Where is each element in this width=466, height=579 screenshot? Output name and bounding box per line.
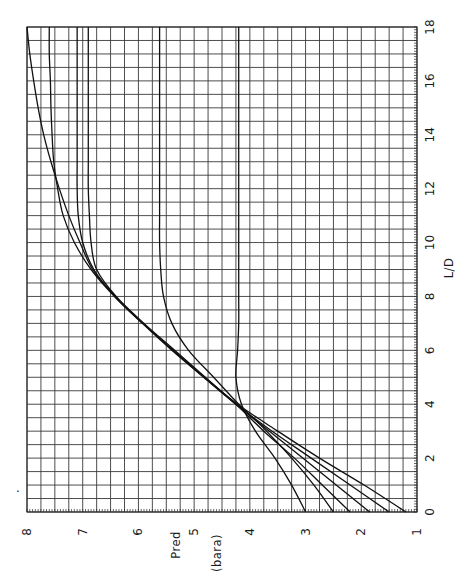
pred-tick-label: 1 [410, 528, 424, 536]
ld-tick-label: 16 [423, 73, 437, 88]
pred-tick-label: 5 [187, 528, 201, 536]
ld-tick-label: 10 [423, 235, 437, 250]
ld-tick-label: 8 [423, 293, 437, 301]
pred-tick-label: 8 [20, 528, 34, 536]
pred-tick-label: 4 [243, 528, 257, 536]
ld-tick-label: 14 [423, 127, 437, 142]
ld-tick-label: 4 [423, 400, 437, 408]
stray-dot: . [16, 481, 20, 495]
pred-tick-label: 3 [299, 528, 313, 536]
ld-axis-tick-labels: 024681012141618 [423, 19, 437, 515]
ld-tick-label: 12 [423, 181, 437, 196]
ld-tick-label: 6 [423, 347, 437, 355]
ld-tick-label: 0 [423, 508, 437, 516]
ld-tick-label: 2 [423, 454, 437, 462]
grid [27, 27, 417, 512]
pred-tick-label: 6 [131, 528, 145, 536]
pred-tick-label: 7 [76, 528, 90, 536]
pred-tick-label: 2 [354, 528, 368, 536]
pred-axis-label: Pred [169, 531, 183, 559]
ld-tick-label: 18 [423, 19, 437, 34]
ld-axis-label: L/D [442, 258, 456, 279]
chart: 024681012141618 12345678 L/D Pred (bara)… [0, 0, 466, 579]
pred-axis-unit: (bara) [210, 534, 224, 572]
